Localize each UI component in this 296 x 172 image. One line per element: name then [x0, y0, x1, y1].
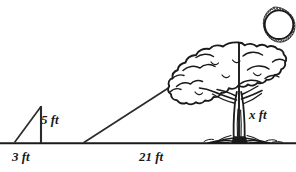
- tree-icon: [168, 42, 286, 143]
- small-triangle-hypotenuse: [15, 107, 42, 143]
- small-right-triangle: [15, 106, 42, 143]
- label-pole-shadow: 3 ft: [12, 150, 30, 163]
- figure-canvas: 5 ft 3 ft 21 ft x ft: [0, 0, 296, 172]
- sun-icon: [263, 7, 295, 42]
- label-pole-height: 5 ft: [41, 113, 59, 126]
- label-tree-shadow: 21 ft: [139, 150, 163, 163]
- sun-disc-icon: [265, 10, 294, 39]
- label-tree-height: x ft: [249, 108, 267, 121]
- diagram-svg: [0, 0, 296, 172]
